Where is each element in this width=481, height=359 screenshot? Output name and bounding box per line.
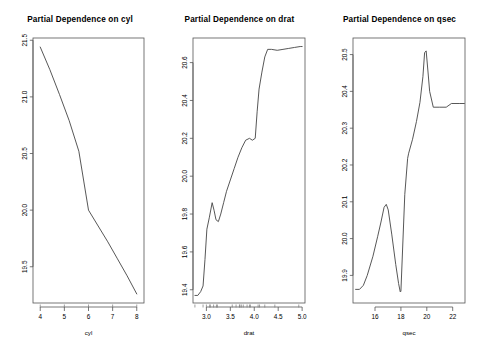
partial-dependence-figure: Partial Dependence on cyl 19.520.020.521… xyxy=(0,0,481,359)
x-tick-label-cyl-3: 7 xyxy=(111,313,115,320)
panel-cyl-plot: 19.520.020.521.021.545678cyl xyxy=(0,0,160,359)
y-tick-label-drat-5: 20.4 xyxy=(181,94,188,107)
x-tick-label-cyl-2: 6 xyxy=(87,313,91,320)
x-tick-label-qsec-3: 22 xyxy=(449,313,457,320)
x-tick-label-qsec-0: 16 xyxy=(371,313,379,320)
y-tick-label-qsec-4: 20.3 xyxy=(341,122,348,135)
y-tick-label-cyl-1: 20.0 xyxy=(21,203,28,216)
y-tick-label-drat-2: 19.8 xyxy=(181,207,188,220)
plot-frame-cyl xyxy=(33,38,144,303)
x-tick-label-drat-0: 3.0 xyxy=(202,313,211,320)
plot-frame-drat xyxy=(193,38,305,303)
y-tick-label-qsec-5: 20.4 xyxy=(341,85,348,98)
x-axis-title-drat: drat xyxy=(244,329,255,336)
pd-curve-drat xyxy=(195,47,302,296)
y-tick-label-drat-3: 20.0 xyxy=(181,170,188,183)
x-tick-label-qsec-1: 18 xyxy=(397,313,405,320)
x-tick-label-drat-4: 5.0 xyxy=(298,313,307,320)
y-tick-label-drat-1: 19.6 xyxy=(181,245,188,258)
y-tick-label-drat-6: 20.6 xyxy=(181,56,188,69)
plot-frame-qsec xyxy=(353,38,465,303)
x-tick-label-drat-3: 4.5 xyxy=(274,313,283,320)
y-tick-label-qsec-1: 20.0 xyxy=(341,232,348,245)
x-tick-label-drat-1: 3.5 xyxy=(226,313,235,320)
x-tick-label-cyl-1: 5 xyxy=(63,313,67,320)
y-tick-label-drat-4: 20.2 xyxy=(181,132,188,145)
x-tick-label-drat-2: 4.0 xyxy=(250,313,259,320)
pd-curve-qsec xyxy=(356,51,465,292)
x-axis-title-qsec: qsec xyxy=(402,329,415,336)
panel-cyl: Partial Dependence on cyl 19.520.020.521… xyxy=(0,0,160,359)
pd-curve-cyl xyxy=(40,47,137,294)
y-tick-label-qsec-0: 19.9 xyxy=(341,269,348,282)
x-tick-label-qsec-2: 20 xyxy=(423,313,431,320)
y-tick-label-cyl-3: 21.0 xyxy=(21,90,28,103)
y-tick-label-qsec-3: 20.2 xyxy=(341,158,348,171)
y-tick-label-cyl-0: 19.5 xyxy=(21,260,28,273)
panel-qsec-plot: 19.920.020.120.220.320.420.516182022qsec xyxy=(318,0,481,359)
x-axis-title-cyl: cyl xyxy=(85,329,93,336)
y-tick-label-qsec-6: 20.5 xyxy=(341,48,348,61)
y-tick-label-qsec-2: 20.1 xyxy=(341,195,348,208)
panel-drat: Partial Dependence on drat 19.419.619.82… xyxy=(158,0,321,359)
y-tick-label-drat-0: 19.4 xyxy=(181,283,188,296)
panel-qsec: Partial Dependence on qsec 19.920.020.12… xyxy=(318,0,481,359)
x-tick-label-cyl-4: 8 xyxy=(135,313,139,320)
panel-drat-plot: 19.419.619.820.020.220.420.63.03.54.04.5… xyxy=(158,0,321,359)
x-tick-label-cyl-0: 4 xyxy=(38,313,42,320)
y-tick-label-cyl-2: 20.5 xyxy=(21,147,28,160)
y-tick-label-cyl-4: 21.5 xyxy=(21,34,28,47)
